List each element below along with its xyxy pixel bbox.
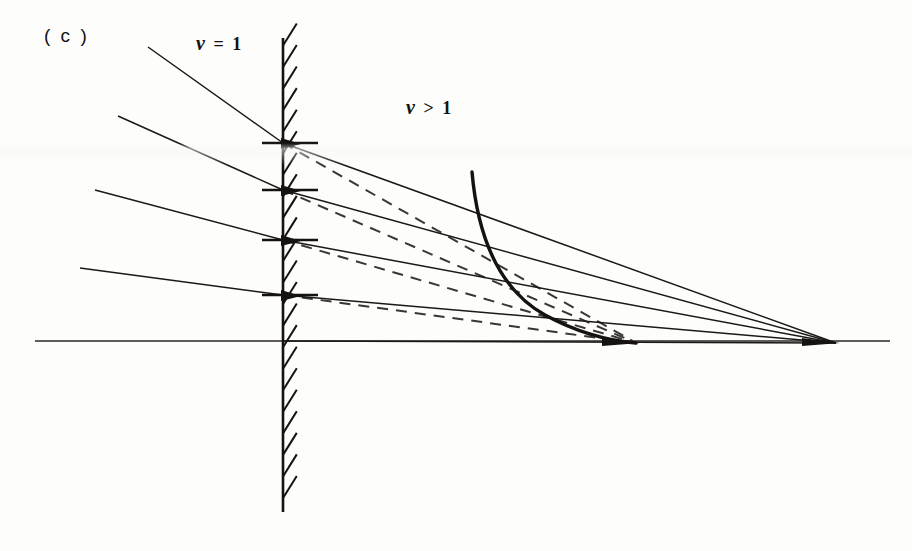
wall-hatch-21 <box>283 454 297 476</box>
ray-diagram-svg <box>0 0 912 551</box>
panel-label: ( c ) <box>44 25 89 47</box>
incident-rays-group <box>80 47 283 295</box>
wall-hatch-marks <box>283 23 297 498</box>
refracted-ray-solid-3 <box>283 240 836 343</box>
wall-hatch-12 <box>283 260 297 282</box>
wall-hatch-3 <box>283 67 297 89</box>
wall-hatch-20 <box>283 433 297 455</box>
region-label-nu-greater-than-one: ν > 1 <box>406 96 453 119</box>
nu-relation-text: = 1 <box>207 34 243 54</box>
solid-refracted-rays-group <box>283 143 836 343</box>
figure-canvas: ( c ) ν = 1 ν > 1 <box>0 0 912 551</box>
incident-ray-2 <box>118 116 283 190</box>
wall-hatch-2 <box>283 45 297 67</box>
nu-glyph: ν <box>196 32 207 54</box>
wall-hatch-16 <box>283 347 297 369</box>
wall-hatch-22 <box>283 476 297 498</box>
wall-hatch-9 <box>283 196 297 218</box>
dashed-refracted-rays-group <box>283 143 636 343</box>
wall-hatch-7 <box>283 153 297 175</box>
wall-hatch-4 <box>283 88 297 110</box>
incident-ray-1 <box>148 47 283 143</box>
wall-hatch-14 <box>283 304 297 326</box>
refracted-ray-solid-1 <box>283 143 836 343</box>
refracted-ray-dashed-3 <box>283 240 636 343</box>
nu-glyph: ν <box>406 96 417 118</box>
wall-hatch-1 <box>283 23 297 45</box>
wall-hatch-15 <box>283 325 297 347</box>
impact-wedge-3 <box>281 235 301 246</box>
caustic-curve <box>472 172 636 343</box>
wall-hatch-5 <box>283 110 297 132</box>
region-label-nu-equals-one: ν = 1 <box>196 32 243 55</box>
wall-hatch-19 <box>283 411 297 433</box>
refracted-ray-solid-4 <box>283 295 836 343</box>
refracted-ray-dashed-1 <box>283 143 636 343</box>
incident-ray-4 <box>80 268 283 295</box>
hatched-boundary-group <box>283 23 297 512</box>
refracted-ray-dashed-2 <box>283 190 636 343</box>
incident-ray-3 <box>95 190 283 240</box>
wall-hatch-18 <box>283 390 297 412</box>
wall-hatch-17 <box>283 368 297 390</box>
nu-relation-text: > 1 <box>417 98 453 118</box>
wall-hatch-10 <box>283 217 297 239</box>
